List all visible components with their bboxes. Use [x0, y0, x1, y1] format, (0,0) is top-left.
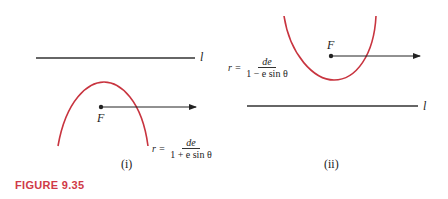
figure-label: FIGURE 9.35 [15, 179, 84, 191]
caption-ii: (ii) [324, 157, 339, 172]
equation-denominator-ii: 1 − e sin θ [244, 68, 290, 79]
caption-i: (i) [121, 157, 132, 172]
line-label-i: l [200, 50, 203, 65]
equation-denominator-i: 1 + e sin θ [168, 149, 214, 160]
diagram-canvas [0, 0, 448, 199]
focus-label-i: F [97, 111, 104, 126]
equation-i: r = de 1 + e sin θ [152, 137, 214, 160]
focus-label-ii: F [327, 38, 334, 53]
equation-numerator-ii: de [258, 56, 275, 68]
line-label-ii: l [423, 99, 426, 114]
equation-lhs-ii: r = [228, 62, 241, 73]
equation-numerator-i: de [182, 137, 199, 149]
equation-ii: r = de 1 − e sin θ [228, 56, 290, 79]
equation-lhs-i: r = [152, 143, 165, 154]
